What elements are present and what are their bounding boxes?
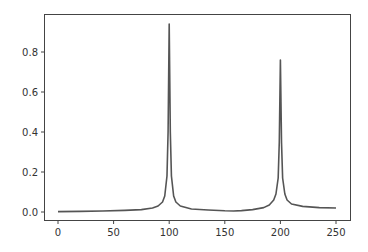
x-tick-label: 150 bbox=[215, 227, 234, 238]
x-tick-label: 250 bbox=[326, 227, 345, 238]
y-tick-label: 0.0 bbox=[22, 207, 38, 218]
line-chart: 050100150200250 0.00.20.40.60.8 bbox=[0, 0, 368, 252]
y-axis: 0.00.20.40.60.8 bbox=[22, 47, 44, 218]
x-tick-label: 50 bbox=[107, 227, 120, 238]
axes-frame bbox=[45, 15, 351, 221]
x-axis: 050100150200250 bbox=[55, 221, 346, 239]
y-tick-label: 0.6 bbox=[22, 87, 38, 98]
plot-area bbox=[45, 15, 351, 221]
y-tick-label: 0.4 bbox=[22, 127, 38, 138]
x-tick-label: 200 bbox=[271, 227, 290, 238]
y-tick-label: 0.8 bbox=[22, 47, 38, 58]
x-tick-label: 0 bbox=[55, 227, 61, 238]
x-tick-label: 100 bbox=[160, 227, 179, 238]
y-tick-label: 0.2 bbox=[22, 167, 38, 178]
